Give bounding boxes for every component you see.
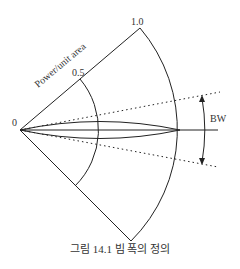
beam-width-diagram: Power/unit area 1.0 0.5 0 BW <box>0 0 240 269</box>
axis-label: Power/unit area <box>32 40 88 89</box>
tick-half: 0.5 <box>72 67 85 78</box>
half-power-arc <box>75 79 98 186</box>
tick-full: 1.0 <box>131 16 144 27</box>
origin-label: 0 <box>12 117 17 128</box>
upper-beam-edge <box>20 92 220 130</box>
figure-caption: 그림 14.1 빔 폭의 정의 <box>0 240 240 256</box>
arrowhead-down <box>199 158 205 165</box>
arrowhead-up <box>199 95 205 102</box>
bw-label: BW <box>210 113 227 124</box>
